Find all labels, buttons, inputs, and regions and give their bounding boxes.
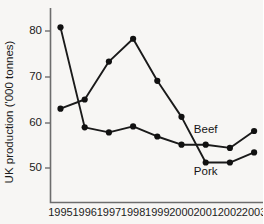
- data-point-pork-2003: [251, 149, 257, 155]
- series-line-pork: [61, 39, 255, 163]
- x-tick-label-2002: 2002: [218, 206, 242, 218]
- x-tick-label-1997: 1997: [97, 206, 121, 218]
- y-tick-label-80: 80: [29, 24, 42, 36]
- x-tick-label-1995: 1995: [48, 206, 72, 218]
- series-annotation-beef: Beef: [194, 123, 218, 135]
- series-annotation-pork: Pork: [194, 165, 218, 177]
- y-tick-label-60: 60: [29, 116, 42, 128]
- data-point-pork-2000: [178, 114, 184, 120]
- series-line-beef: [61, 27, 255, 148]
- data-point-pork-1995: [57, 106, 63, 112]
- series-markers-beef: [57, 24, 257, 151]
- axis-frame: [51, 8, 264, 203]
- data-point-beef-1995: [57, 24, 63, 30]
- data-point-beef-2002: [227, 145, 233, 151]
- chart-canvas: UK production ('000 tonnes) 80 70 60 50 …: [0, 0, 263, 224]
- x-tick-label-2003: 2003: [242, 206, 263, 218]
- line-chart-uk-meat-production: UK production ('000 tonnes) 80 70 60 50 …: [0, 0, 263, 224]
- data-point-pork-2002: [227, 159, 233, 165]
- data-point-pork-1997: [106, 59, 112, 65]
- data-point-beef-2000: [178, 142, 184, 148]
- data-point-pork-1999: [154, 78, 160, 84]
- data-point-beef-1999: [154, 133, 160, 139]
- y-tick-label-70: 70: [29, 70, 42, 82]
- x-tick-label-1996: 1996: [72, 206, 96, 218]
- data-point-beef-2003: [251, 128, 257, 134]
- y-tick-label-50: 50: [29, 161, 42, 173]
- y-axis-title: UK production ('000 tonnes): [3, 40, 15, 183]
- data-point-beef-2001: [203, 142, 209, 148]
- x-axis-tick-labels: 199519961997199819992000200120022003: [48, 206, 263, 218]
- data-point-beef-1998: [130, 123, 136, 129]
- x-tick-label-1999: 1999: [145, 206, 169, 218]
- x-tick-label-2001: 2001: [193, 206, 217, 218]
- x-tick-label-2000: 2000: [169, 206, 193, 218]
- data-point-beef-1996: [82, 124, 88, 130]
- data-point-pork-1996: [82, 96, 88, 102]
- series-markers-pork: [57, 36, 257, 166]
- data-point-pork-1998: [130, 36, 136, 42]
- data-point-beef-1997: [106, 129, 112, 135]
- x-tick-label-1998: 1998: [121, 206, 145, 218]
